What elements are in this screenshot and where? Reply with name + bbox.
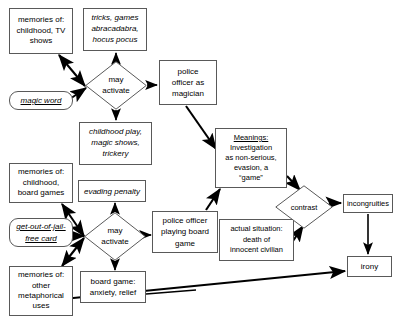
edge-memories-tv-to-may-activate [59,55,85,86]
node-label: tricks, games abracadabra, hocus pocus [84,13,146,45]
node-memories-childhood-board-games[interactable]: memories of: childhood, board games [9,163,73,203]
node-memories-childhood-tv[interactable]: memories of: childhood, TV shows [9,8,73,54]
node-label: irony [348,262,391,271]
node-label: may activate [85,75,147,97]
node-label: evading penalty [79,187,145,196]
node-label: get-out-of-jail- free card [10,221,72,244]
node-label: memories of: childhood, TV shows [10,15,72,47]
node-label: police officer as magician [160,66,216,100]
node-police-officer-magician[interactable]: police officer as magician [159,60,217,105]
node-get-out-of-jail-free-card[interactable]: get-out-of-jail- free card [9,218,73,247]
node-police-officer-board-game[interactable]: police officer playing board game [152,211,218,253]
node-label: Investigation as non-serious, evasion, a… [216,143,286,184]
node-irony[interactable]: irony [347,256,392,277]
node-contrast[interactable]: contrast [275,185,333,229]
node-label: memories of: other metaphorical uses [10,270,72,312]
node-label: may activate [84,226,146,248]
node-childhood-play[interactable]: childhood play, magic shows, trickery [79,122,152,165]
node-board-game-anxiety[interactable]: board game: anxiety, relief [80,271,146,303]
edge-officer-board-game-to-meanings [206,189,220,210]
node-label: incongruities [344,199,392,208]
node-tricks-games[interactable]: tricks, games abracadabra, hocus pocus [83,8,147,51]
node-label: board game: anxiety, relief [81,276,145,298]
node-meanings[interactable]: Meanings: Investigation as non-serious, … [215,128,287,188]
node-label: childhood play, magic shows, trickery [80,127,151,159]
node-memories-other-metaphorical[interactable]: memories of: other metaphorical uses [9,266,73,316]
diagram-canvas: memories of: childhood, TV shows tricks,… [0,0,396,323]
node-evading-penalty[interactable]: evading penalty [78,180,146,202]
node-incongruities[interactable]: incongruities [343,194,393,213]
node-magic-word[interactable]: magic word [9,91,73,110]
node-label: contrast [275,203,333,212]
node-heading: Meanings: [234,133,269,143]
node-label: magic word [10,96,72,105]
node-may-activate-top[interactable]: may activate [85,61,147,110]
node-label: police officer playing board game [153,215,217,249]
node-may-activate-bottom[interactable]: may activate [84,212,146,261]
edge-officer-magician-to-meanings [186,106,216,149]
node-label: memories of: childhood, board games [10,167,72,199]
